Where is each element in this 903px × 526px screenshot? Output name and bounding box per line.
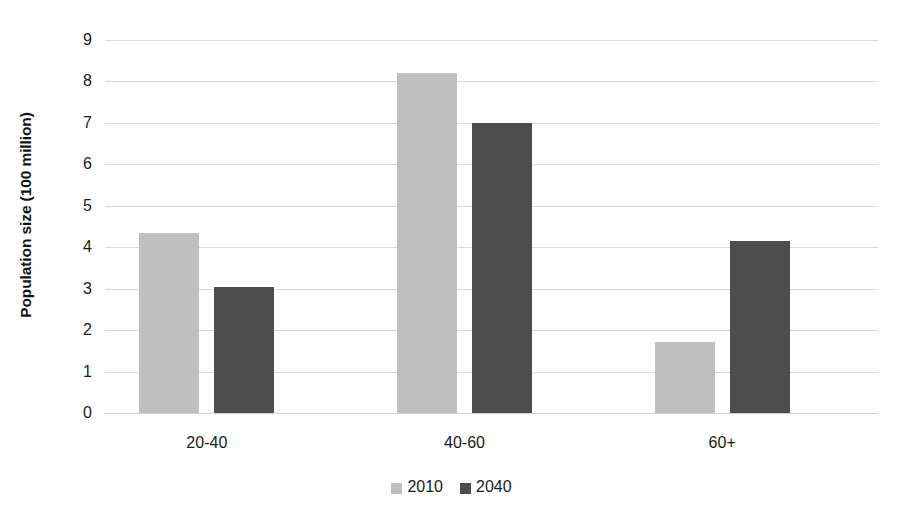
y-tick-label-5: 5: [83, 198, 92, 214]
y-tick-label-0: 0: [83, 405, 92, 421]
bar-40-60-2040[interactable]: [472, 123, 532, 413]
y-axis-title: Population size (100 million): [0, 0, 52, 430]
x-axis-tick-labels: 20-4040-6060+: [105, 413, 878, 459]
legend-swatch-icon-2040: [460, 483, 471, 494]
legend-item-2040[interactable]: 2040: [460, 479, 512, 495]
gridline-8: [105, 81, 878, 82]
legend-label-2010: 2010: [407, 479, 443, 495]
gridline-9: [105, 40, 878, 41]
x-tick-label-60+: 60+: [709, 435, 736, 451]
plot-area: [105, 40, 878, 413]
bar-20-40-2040[interactable]: [214, 287, 274, 413]
bar-60+-2010[interactable]: [655, 342, 715, 413]
legend-label-2040: 2040: [476, 479, 512, 495]
y-tick-label-1: 1: [83, 364, 92, 380]
y-tick-label-8: 8: [83, 73, 92, 89]
y-tick-label-7: 7: [83, 115, 92, 131]
legend-swatch-icon-2010: [391, 483, 402, 494]
bar-40-60-2010[interactable]: [397, 73, 457, 413]
legend-item-2010[interactable]: 2010: [391, 479, 443, 495]
y-tick-label-3: 3: [83, 281, 92, 297]
y-axis-title-text: Population size (100 million): [17, 112, 35, 318]
x-tick-label-40-60: 40-60: [444, 435, 485, 451]
bar-chart: Population size (100 million) 0123456789…: [0, 0, 903, 526]
x-tick-label-20-40: 20-40: [186, 435, 227, 451]
bar-60+-2040[interactable]: [730, 241, 790, 413]
y-tick-label-2: 2: [83, 322, 92, 338]
bar-20-40-2010[interactable]: [139, 233, 199, 413]
chart-legend: 20102040: [0, 474, 903, 500]
y-tick-label-6: 6: [83, 156, 92, 172]
y-tick-label-9: 9: [83, 32, 92, 48]
y-tick-label-4: 4: [83, 239, 92, 255]
y-axis-tick-labels: 0123456789: [60, 0, 100, 430]
